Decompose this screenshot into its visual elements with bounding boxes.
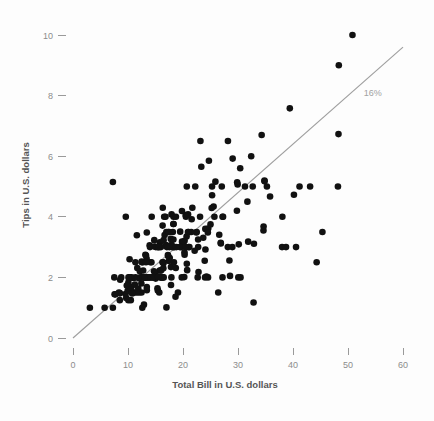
data-point — [335, 131, 342, 138]
chart-annotation-16: 16% — [364, 88, 382, 98]
data-point — [147, 244, 154, 251]
data-point — [313, 259, 320, 266]
x-tick-label: 20 — [178, 360, 188, 370]
data-point — [296, 183, 303, 190]
x-tick-label: 10 — [123, 360, 133, 370]
data-point — [192, 183, 199, 190]
data-point — [244, 198, 251, 205]
data-point — [156, 289, 163, 296]
data-point — [195, 236, 202, 243]
data-point — [336, 62, 343, 69]
data-point — [111, 274, 118, 281]
x-tick-label: 50 — [343, 360, 353, 370]
data-point — [234, 179, 241, 186]
data-point — [144, 287, 151, 294]
scatter-plot-figure: 0102030405060 0246810 16% Total Bill in … — [0, 0, 434, 421]
data-point — [132, 259, 139, 266]
data-point — [319, 229, 326, 236]
data-point — [126, 256, 133, 263]
data-point — [159, 204, 166, 211]
data-point — [197, 138, 204, 145]
data-point — [218, 183, 225, 190]
data-point — [184, 267, 191, 274]
data-point — [170, 229, 177, 236]
data-point — [112, 291, 119, 298]
data-point — [172, 293, 179, 300]
data-point — [211, 214, 218, 221]
data-point — [261, 178, 268, 185]
data-point — [123, 214, 130, 221]
x-tick-label: 30 — [233, 360, 243, 370]
y-tick-label: 2 — [48, 273, 53, 283]
data-point — [148, 214, 155, 221]
data-point — [235, 274, 242, 281]
data-point — [165, 252, 172, 259]
data-point — [134, 232, 141, 239]
data-point — [110, 179, 117, 186]
data-point — [207, 221, 214, 228]
data-point — [201, 257, 208, 264]
annotations-group: 16% — [364, 88, 382, 98]
data-point — [129, 290, 136, 297]
data-point — [173, 265, 180, 272]
data-point — [163, 304, 170, 311]
data-point — [349, 32, 356, 39]
data-point — [117, 297, 124, 304]
data-point — [184, 260, 191, 267]
data-point — [229, 155, 236, 162]
data-point — [143, 259, 150, 266]
data-point — [219, 274, 226, 281]
data-point — [170, 221, 177, 228]
data-point — [217, 240, 224, 247]
data-point — [137, 268, 144, 275]
data-point — [160, 265, 167, 272]
data-point — [279, 214, 286, 221]
data-point — [155, 273, 162, 280]
data-point — [178, 274, 185, 281]
data-point — [183, 214, 190, 221]
data-point — [242, 183, 249, 190]
data-point — [173, 214, 180, 221]
data-point — [216, 231, 223, 238]
data-point — [141, 274, 148, 281]
data-point — [202, 274, 209, 281]
data-point — [260, 223, 267, 230]
data-point — [110, 304, 117, 311]
data-point — [307, 183, 314, 190]
plot-canvas: 0102030405060 0246810 16% Total Bill in … — [0, 0, 434, 421]
data-point — [160, 237, 167, 244]
data-point — [250, 299, 257, 306]
data-point — [208, 205, 215, 212]
data-point — [202, 246, 209, 253]
data-point — [287, 105, 294, 112]
data-point — [139, 304, 146, 311]
data-point — [198, 164, 205, 171]
data-point — [125, 274, 132, 281]
x-tick-label: 60 — [398, 360, 408, 370]
data-point — [212, 178, 219, 185]
data-point — [197, 214, 204, 221]
data-point — [225, 244, 232, 251]
data-point — [291, 191, 298, 198]
data-point — [209, 192, 216, 199]
data-point — [184, 183, 191, 190]
data-point — [220, 214, 227, 221]
y-tick-label: 6 — [48, 152, 53, 162]
data-point — [143, 252, 150, 259]
data-point — [151, 237, 158, 244]
data-point — [159, 259, 166, 266]
data-point — [155, 244, 162, 251]
data-point — [258, 132, 265, 139]
data-point — [194, 274, 201, 281]
data-point — [101, 304, 108, 311]
y-axis-title: Tips in U.S. dollars — [20, 142, 31, 227]
data-point — [179, 208, 186, 215]
data-point — [293, 244, 300, 251]
y-tick-label: 10 — [43, 31, 53, 41]
data-point — [189, 204, 196, 211]
data-point — [117, 277, 124, 284]
data-point — [225, 138, 232, 145]
data-point — [335, 183, 342, 190]
y-tick-label: 8 — [48, 91, 53, 101]
data-point — [248, 153, 255, 160]
